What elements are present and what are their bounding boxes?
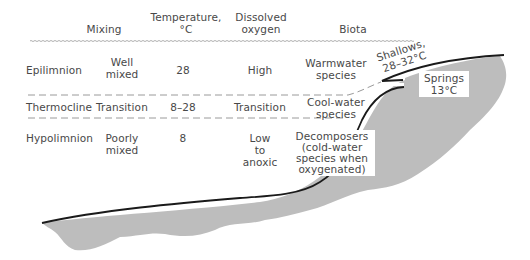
oxygen-value: High (248, 64, 273, 76)
lake-stratification-diagram: Mixing Temperature, °C Dissolved oxygen … (0, 0, 530, 260)
biota-line1: Cool-water (300, 96, 372, 108)
biota-line4: oxygenated) (292, 164, 372, 175)
oxygen-epilimnion: High (235, 64, 285, 76)
header-mixing-text: Mixing (86, 23, 121, 35)
mixing-hypolimnion: Poorly mixed (92, 132, 152, 156)
mixing-line1: Poorly (92, 132, 152, 144)
springs-inlet-top (382, 80, 403, 81)
mixing-line2: mixed (92, 68, 152, 80)
oxygen-line3: anoxic (235, 156, 285, 168)
header-biota-text: Biota (339, 23, 367, 35)
oxygen-value: Transition (234, 101, 286, 113)
biota-line2: species (300, 108, 372, 120)
temperature-value: 28 (176, 64, 190, 76)
water-surface-line (30, 41, 414, 42)
springs-line1: Springs (422, 72, 466, 84)
mixing-line1: Well (92, 56, 152, 68)
header-mixing: Mixing (74, 23, 134, 35)
oxygen-hypolimnion: Low to anoxic (235, 132, 285, 168)
biota-line1: Warmwater (300, 57, 372, 69)
temperature-epilimnion: 28 (163, 64, 203, 76)
layer-name-hypolimnion: Hypolimnion (26, 132, 93, 144)
header-temperature-line1: Temperature, (146, 11, 226, 23)
layer-name-thermocline: Thermocline (26, 101, 92, 113)
layer-name-text: Epilimnion (26, 64, 82, 76)
header-oxygen-line1: Dissolved (226, 11, 296, 23)
biota-epilimnion: Warmwater species (300, 57, 372, 81)
biota-line2: species (300, 69, 372, 81)
temperature-value: 8 (180, 132, 187, 144)
header-oxygen-line2: oxygen (226, 23, 296, 35)
oxygen-line1: Low (235, 132, 285, 144)
biota-thermocline: Cool-water species (300, 96, 372, 120)
mixing-line2: mixed (92, 144, 152, 156)
header-oxygen: Dissolved oxygen (226, 11, 296, 35)
header-temperature: Temperature, °C (146, 11, 226, 35)
mixing-thermocline: Transition (92, 101, 152, 113)
layer-name-epilimnion: Epilimnion (26, 64, 82, 76)
mixing-value: Transition (96, 101, 148, 113)
oxygen-line2: to (235, 144, 285, 156)
biota-hypolimnion: Decomposers (cold-water species when oxy… (289, 130, 375, 176)
header-biota: Biota (328, 23, 378, 35)
temperature-thermocline: 8–28 (163, 101, 203, 113)
temperature-hypolimnion: 8 (163, 132, 203, 144)
springs-inlet-channel (378, 83, 404, 86)
layer-name-text: Thermocline (26, 101, 92, 113)
springs-annotation: Springs 13°C (419, 71, 469, 97)
header-temperature-line2: °C (146, 23, 226, 35)
springs-line2: 13°C (422, 84, 466, 96)
temperature-value: 8–28 (170, 101, 196, 113)
oxygen-thermocline: Transition (226, 101, 294, 113)
diagram-graphics (0, 0, 530, 260)
thermocline-top-boundary (28, 82, 381, 95)
mixing-epilimnion: Well mixed (92, 56, 152, 80)
layer-name-text: Hypolimnion (26, 132, 93, 144)
